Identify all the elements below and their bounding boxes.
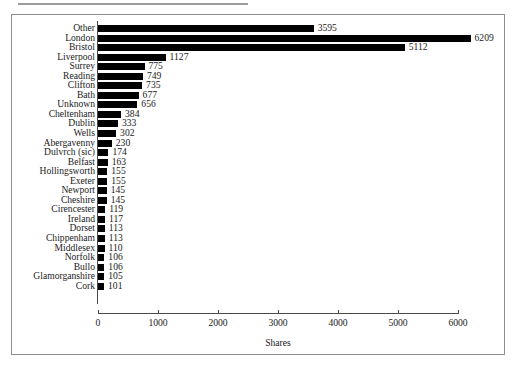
x-tick-label: 4000 [328, 317, 347, 328]
x-tick-mark [458, 310, 459, 314]
x-tick-mark [338, 310, 339, 314]
bar [98, 120, 118, 127]
bar [98, 25, 314, 32]
bar-rows-container: Other3595London6209Bristol5112Liverpool1… [12, 24, 506, 291]
bar [98, 111, 121, 118]
bar [98, 273, 104, 280]
chart-figure-frame: Other3595London6209Bristol5112Liverpool1… [11, 14, 505, 355]
bar [98, 92, 139, 99]
x-axis-title: Shares [98, 337, 458, 348]
bar [98, 197, 107, 204]
x-tick-label: 2000 [208, 317, 227, 328]
bar [98, 168, 107, 175]
bar [98, 206, 105, 213]
x-tick-label: 6000 [448, 317, 467, 328]
bar-value-label: 6209 [475, 33, 494, 43]
bar-value-label: 3595 [318, 23, 337, 33]
bar-category-label: Cork [0, 281, 95, 291]
bar-value-label: 1127 [170, 52, 189, 62]
bar-value-label: 656 [141, 99, 155, 109]
bar [98, 82, 142, 89]
bar [98, 235, 105, 242]
bar [98, 245, 105, 252]
x-tick-label: 5000 [388, 317, 407, 328]
page-top-rule [18, 3, 248, 5]
bar [98, 73, 143, 80]
bar-value-label: 101 [108, 281, 122, 291]
bar [98, 178, 107, 185]
x-tick-label: 1000 [148, 317, 167, 328]
bar [98, 140, 112, 147]
bar-row: Cork101 [12, 282, 506, 292]
bar-chart-plot-area: Other3595London6209Bristol5112Liverpool1… [12, 15, 506, 356]
bar [98, 149, 108, 156]
x-tick-mark [398, 310, 399, 314]
bar [98, 44, 405, 51]
x-tick-label: 0 [96, 317, 101, 328]
bar-value-label: 5112 [409, 42, 428, 52]
bar [98, 254, 104, 261]
x-tick-mark [278, 310, 279, 314]
bar [98, 159, 108, 166]
bar [98, 216, 105, 223]
bar [98, 63, 145, 70]
bar [98, 264, 104, 271]
bar [98, 130, 116, 137]
bar [98, 187, 107, 194]
x-axis: 0100020003000400050006000 Shares [12, 313, 506, 357]
bar [98, 283, 104, 290]
x-tick-mark [218, 310, 219, 314]
x-tick-mark [158, 310, 159, 314]
x-tick-mark [98, 310, 99, 314]
x-tick-label: 3000 [268, 317, 287, 328]
bar [98, 225, 105, 232]
